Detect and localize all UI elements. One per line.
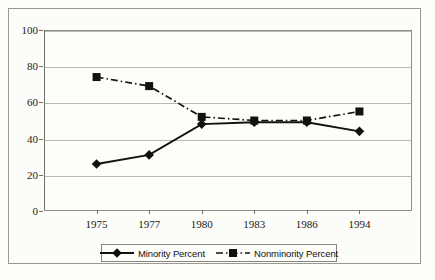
x-tick-mark	[307, 210, 308, 214]
y-tick-mark	[39, 211, 43, 212]
x-tick-mark	[97, 210, 98, 214]
square-marker-icon	[303, 117, 311, 125]
legend-square-marker-icon	[216, 247, 250, 259]
y-tick-mark	[39, 30, 43, 31]
square-marker-icon	[355, 107, 363, 115]
legend-diamond-marker-icon	[100, 247, 134, 259]
legend-entry: Minority Percent	[100, 247, 205, 259]
diamond-marker-icon	[355, 127, 365, 137]
square-marker-icon	[250, 117, 258, 125]
y-tick-mark	[39, 139, 43, 140]
x-tick-label: 1980	[191, 218, 213, 230]
legend-label: Nonminority Percent	[254, 248, 338, 259]
y-tick-label: 0	[33, 205, 39, 217]
diamond-marker-icon	[92, 159, 102, 169]
x-tick-label: 1986	[296, 218, 318, 230]
y-tick-label: 100	[22, 24, 39, 36]
square-marker-icon	[198, 113, 206, 121]
x-tick-label: 1977	[138, 218, 160, 230]
x-tick-label: 1975	[86, 218, 108, 230]
series-layer	[44, 30, 412, 211]
series-line	[97, 122, 360, 164]
square-marker-icon	[145, 82, 153, 90]
chart-page: 020406080100 197519771980198319861994 Mi…	[0, 0, 435, 280]
x-tick-mark	[202, 210, 203, 214]
plot-wrap	[44, 30, 412, 211]
x-tick-label: 1994	[348, 218, 370, 230]
x-tick-mark	[359, 210, 360, 214]
chart-legend: Minority PercentNonminority Percent	[101, 244, 337, 262]
x-tick-mark	[149, 210, 150, 214]
y-tick-label: 80	[27, 60, 38, 72]
y-tick-mark	[39, 66, 43, 67]
y-tick-label: 40	[27, 133, 38, 145]
square-marker-icon	[93, 73, 101, 81]
x-tick-label: 1983	[243, 218, 265, 230]
y-axis: 020406080100	[0, 30, 38, 211]
x-axis: 197519771980198319861994	[44, 214, 412, 234]
y-tick-mark	[39, 102, 43, 103]
series-line	[97, 77, 360, 120]
square-marker-icon	[229, 249, 237, 257]
legend-entry: Nonminority Percent	[216, 247, 338, 259]
y-tick-mark	[39, 175, 43, 176]
x-tick-mark	[254, 210, 255, 214]
diamond-marker-icon	[112, 248, 122, 258]
y-tick-label: 60	[27, 96, 38, 108]
legend-label: Minority Percent	[138, 248, 205, 259]
y-tick-label: 20	[27, 169, 38, 181]
diamond-marker-icon	[144, 150, 154, 160]
